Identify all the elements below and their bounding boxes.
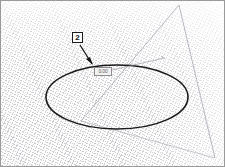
construction-axis-line-lower — [81, 5, 179, 121]
callout-arrow-head — [86, 57, 93, 65]
circle-sketch-entity[interactable] — [46, 65, 188, 129]
modeling-viewport[interactable]: 2 0.00 — [1, 1, 224, 166]
vector-geometry-layer — [1, 1, 224, 166]
value-tooltip: 0.00 — [94, 67, 112, 76]
construction-axis-line — [179, 5, 215, 158]
callout-badge-2[interactable]: 2 — [72, 32, 83, 43]
screenshot-root: 2 0.00 — [0, 0, 225, 167]
